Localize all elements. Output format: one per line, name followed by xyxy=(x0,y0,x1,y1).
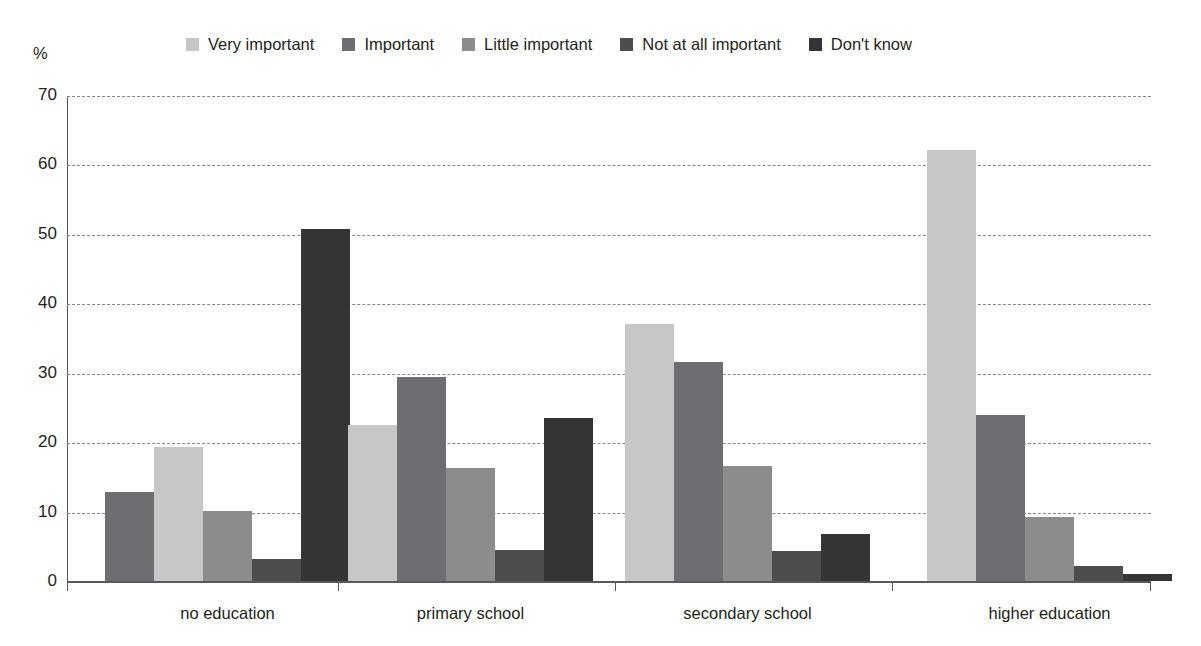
bar xyxy=(772,551,821,581)
legend-swatch-icon xyxy=(809,38,822,51)
y-axis-tick-label: 30 xyxy=(0,363,57,383)
legend-item-label: Little important xyxy=(484,36,592,53)
y-axis-tick-label: 60 xyxy=(0,154,57,174)
plot-area xyxy=(67,96,1151,582)
y-axis-tick-label: 40 xyxy=(0,293,57,313)
legend-swatch-icon xyxy=(620,38,633,51)
x-axis-line xyxy=(67,581,1151,583)
legend-item-label: Don't know xyxy=(831,36,912,53)
legend-item: Not at all important xyxy=(620,36,780,53)
x-axis-tick xyxy=(67,582,68,591)
bar xyxy=(674,362,723,581)
y-axis-unit-label: % xyxy=(33,44,48,63)
bar xyxy=(544,418,593,581)
x-axis-tick xyxy=(1150,582,1151,591)
bar xyxy=(927,150,976,581)
legend-item-label: Not at all important xyxy=(642,36,780,53)
legend-item: Very important xyxy=(186,36,314,53)
legend-item: Important xyxy=(342,36,434,53)
bar xyxy=(105,492,154,581)
y-axis-tick-label: 0 xyxy=(0,571,57,591)
y-axis-tick-label: 50 xyxy=(0,224,57,244)
y-axis-tick-label: 70 xyxy=(0,85,57,105)
x-axis-tick xyxy=(892,582,893,591)
bar xyxy=(154,447,203,581)
legend-swatch-icon xyxy=(342,38,355,51)
x-axis-tick xyxy=(338,582,339,591)
bar xyxy=(348,425,397,581)
bar xyxy=(821,534,870,581)
bar xyxy=(495,550,544,581)
y-axis-tick-label: 10 xyxy=(0,502,57,522)
bar xyxy=(1074,566,1123,581)
bar xyxy=(203,511,252,581)
bar xyxy=(301,229,350,581)
bar xyxy=(397,377,446,581)
legend-item: Little important xyxy=(462,36,592,53)
bar xyxy=(446,468,495,581)
gridline xyxy=(67,374,1151,375)
legend-item-label: Important xyxy=(364,36,434,53)
bar xyxy=(1025,517,1074,581)
x-axis-category-label: primary school xyxy=(417,604,524,623)
chart-legend: Very importantImportantLittle importantN… xyxy=(186,32,1086,56)
legend-item-label: Very important xyxy=(208,36,314,53)
x-axis-category-label: no education xyxy=(180,604,275,623)
bar-chart: Very importantImportantLittle importantN… xyxy=(0,0,1201,646)
y-axis-tick-label: 20 xyxy=(0,432,57,452)
legend-item: Don't know xyxy=(809,36,912,53)
bar xyxy=(1123,574,1172,581)
gridline xyxy=(67,235,1151,236)
x-axis-tick xyxy=(615,582,616,591)
gridline xyxy=(67,165,1151,166)
x-axis-category-label: higher education xyxy=(988,604,1110,623)
bar xyxy=(976,415,1025,581)
y-axis-line xyxy=(67,96,68,582)
x-axis-category-label: secondary school xyxy=(683,604,811,623)
legend-swatch-icon xyxy=(462,38,475,51)
legend-swatch-icon xyxy=(186,38,199,51)
bar xyxy=(625,324,674,581)
bar xyxy=(723,466,772,581)
gridline xyxy=(67,304,1151,305)
gridline xyxy=(67,96,1151,97)
bar xyxy=(252,559,301,581)
